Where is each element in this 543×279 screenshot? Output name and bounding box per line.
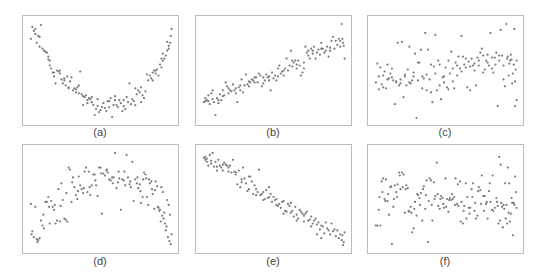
data-point <box>62 82 64 84</box>
data-point <box>53 75 55 77</box>
data-point <box>166 41 168 43</box>
data-point <box>60 78 62 80</box>
data-point <box>449 197 451 199</box>
data-point <box>313 220 315 222</box>
data-point <box>456 203 458 205</box>
data-point <box>388 214 390 216</box>
data-point <box>342 244 344 246</box>
data-point <box>443 75 445 77</box>
data-point <box>54 82 56 84</box>
data-point <box>222 170 224 172</box>
data-point <box>252 79 254 81</box>
data-point <box>232 159 234 161</box>
data-point <box>147 79 149 81</box>
data-point <box>300 74 302 76</box>
data-point <box>410 206 412 208</box>
data-point <box>235 173 237 175</box>
data-point <box>415 117 417 119</box>
data-point <box>102 102 104 104</box>
data-point <box>248 188 250 190</box>
data-point <box>114 152 116 154</box>
data-point <box>489 182 491 184</box>
data-point <box>163 58 165 60</box>
data-point <box>280 72 282 74</box>
data-point <box>341 234 343 236</box>
data-point <box>120 102 122 104</box>
data-point <box>427 241 429 243</box>
plot-area-e <box>195 144 352 254</box>
data-point <box>301 71 303 73</box>
data-point <box>297 60 299 62</box>
data-point <box>162 191 164 193</box>
data-point <box>449 72 451 74</box>
data-point <box>444 177 446 179</box>
data-point <box>206 161 208 163</box>
data-point <box>95 184 97 186</box>
data-point <box>394 184 396 186</box>
data-point <box>507 167 509 169</box>
data-point <box>392 206 394 208</box>
data-point <box>265 73 267 75</box>
data-point <box>478 60 480 62</box>
data-point <box>434 195 436 197</box>
data-point <box>484 68 486 70</box>
data-point <box>319 54 321 56</box>
data-point <box>491 57 493 59</box>
data-point <box>83 187 85 189</box>
data-point <box>39 237 41 239</box>
data-point <box>152 79 154 81</box>
data-point <box>76 86 78 88</box>
data-point <box>397 42 399 44</box>
data-point <box>158 210 160 212</box>
data-point <box>134 178 136 180</box>
data-point <box>258 72 260 74</box>
data-point <box>50 200 52 202</box>
data-point <box>514 105 516 107</box>
data-point <box>326 46 328 48</box>
plot-area-b <box>195 15 352 126</box>
data-point <box>474 202 476 204</box>
data-point <box>86 99 88 101</box>
data-point <box>315 218 317 220</box>
data-point <box>391 243 393 245</box>
data-point <box>65 84 67 86</box>
data-point <box>102 172 104 174</box>
data-point <box>167 236 169 238</box>
data-point <box>140 101 142 103</box>
data-point <box>502 226 504 228</box>
data-point <box>420 49 422 51</box>
data-point <box>46 52 48 54</box>
data-point <box>460 201 462 203</box>
data-point <box>431 101 433 103</box>
data-point <box>451 193 453 195</box>
data-point <box>97 98 99 100</box>
data-point <box>65 192 67 194</box>
data-point <box>277 67 279 69</box>
data-point <box>290 50 292 52</box>
data-point <box>481 174 483 176</box>
data-point <box>313 46 315 48</box>
data-point <box>111 116 113 118</box>
data-point <box>453 87 455 89</box>
data-point <box>498 55 500 57</box>
data-point <box>423 185 425 187</box>
data-point <box>312 222 314 224</box>
data-point <box>447 211 449 213</box>
panel-label-c: (c) <box>425 126 465 138</box>
data-point <box>307 50 309 52</box>
data-point <box>168 204 170 206</box>
data-point <box>436 162 438 164</box>
data-point <box>60 182 62 184</box>
data-point <box>52 206 54 208</box>
data-point <box>162 60 164 62</box>
data-point <box>42 214 44 216</box>
data-point <box>465 218 467 220</box>
data-point <box>316 52 318 54</box>
data-point <box>439 208 441 210</box>
data-point <box>502 78 504 80</box>
data-point <box>465 66 467 68</box>
data-point <box>319 228 321 230</box>
data-point <box>404 75 406 77</box>
panel-label-b: (b) <box>253 126 293 138</box>
data-point <box>404 73 406 75</box>
